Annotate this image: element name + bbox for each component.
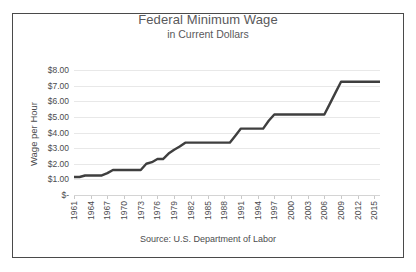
x-axis-tick: 1991 <box>241 196 242 230</box>
chart-subtitle: in Current Dollars <box>0 28 416 40</box>
x-axis-tick: 1982 <box>191 196 192 230</box>
x-axis-tick: 1970 <box>124 196 125 230</box>
x-axis-tick-label: 1979 <box>169 201 179 220</box>
y-axis-tick-label: $3.00 <box>48 143 69 153</box>
x-axis-tick-label: 1985 <box>203 201 213 220</box>
x-axis-tick-label: 2003 <box>303 201 313 220</box>
y-axis-tick-label: $5.00 <box>48 112 69 122</box>
x-axis-tick-label: 1973 <box>136 201 146 220</box>
x-axis-tick-label: 1988 <box>219 201 229 220</box>
x-axis-tick: 1979 <box>174 196 175 230</box>
chart-figure: Federal Minimum Wage in Current Dollars … <box>0 0 416 272</box>
x-axis-tick-mark <box>157 196 158 199</box>
y-axis-tick-label: $2.00 <box>48 159 69 169</box>
x-axis-tick-label: 1967 <box>102 201 112 220</box>
x-axis-tick-mark <box>358 196 359 199</box>
x-axis-tick: 1997 <box>274 196 275 230</box>
y-axis-tick-label: $1.00 <box>48 174 69 184</box>
x-axis-tick-mark <box>191 196 192 199</box>
x-axis-tick-label: 1964 <box>86 201 96 220</box>
y-axis-title: Wage per Hour <box>16 82 30 186</box>
x-axis-tick-mark <box>224 196 225 199</box>
x-axis-tick-label: 1961 <box>69 201 79 220</box>
x-axis-tick-label: 1982 <box>186 201 196 220</box>
x-axis-tick-label: 2006 <box>319 201 329 220</box>
x-axis-tick: 2006 <box>324 196 325 230</box>
x-axis-tick-mark <box>107 196 108 199</box>
x-axis-tick: 1973 <box>141 196 142 230</box>
x-axis-tick: 1964 <box>91 196 92 230</box>
y-axis-tick-label: $4.00 <box>48 128 69 138</box>
x-axis-tick: 2003 <box>308 196 309 230</box>
x-axis-tick-mark <box>374 196 375 199</box>
y-axis-tick-label: $6.00 <box>48 96 69 106</box>
x-axis-line <box>74 195 380 196</box>
x-axis-tick-mark <box>341 196 342 199</box>
x-axis-tick-mark <box>308 196 309 199</box>
x-axis-tick-label: 1976 <box>152 201 162 220</box>
x-axis-tick-label: 2015 <box>369 201 379 220</box>
x-axis-tick-label: 2009 <box>336 201 346 220</box>
x-axis-tick: 2015 <box>374 196 375 230</box>
x-axis-tick-mark <box>74 196 75 199</box>
x-axis-tick-mark <box>174 196 175 199</box>
x-axis-tick-mark <box>91 196 92 199</box>
x-axis-tick-label: 1970 <box>119 201 129 220</box>
y-axis-tick-label: $8.00 <box>48 65 69 75</box>
x-axis-tick-mark <box>324 196 325 199</box>
x-axis-tick-mark <box>241 196 242 199</box>
x-axis-tick-label: 2012 <box>353 201 363 220</box>
x-axis-tick: 1994 <box>258 196 259 230</box>
x-axis-tick-mark <box>291 196 292 199</box>
x-axis-tick: 1988 <box>224 196 225 230</box>
chart-title: Federal Minimum Wage <box>0 12 416 27</box>
x-axis-tick-mark <box>274 196 275 199</box>
x-axis-tick-label: 1994 <box>253 201 263 220</box>
x-axis-tick-mark <box>141 196 142 199</box>
source-note: Source: U.S. Department of Labor <box>0 234 416 244</box>
x-axis-tick-mark <box>124 196 125 199</box>
x-axis-tick: 1976 <box>157 196 158 230</box>
x-axis-tick-label: 1991 <box>236 201 246 220</box>
y-axis-tick-label: $- <box>61 190 69 200</box>
y-axis-tick-label: $7.00 <box>48 81 69 91</box>
series-line-wage <box>74 70 380 195</box>
x-axis-tick: 1985 <box>208 196 209 230</box>
x-axis-tick: 2012 <box>358 196 359 230</box>
x-axis-tick-label: 1997 <box>269 201 279 220</box>
y-axis-title-label: Wage per Hour <box>28 82 39 186</box>
x-axis-tick-label: 2000 <box>286 201 296 220</box>
x-axis-tick: 1967 <box>107 196 108 230</box>
x-axis-tick: 2009 <box>341 196 342 230</box>
plot-area: $-$1.00$2.00$3.00$4.00$5.00$6.00$7.00$8.… <box>74 70 380 195</box>
x-axis-tick: 2000 <box>291 196 292 230</box>
x-axis-tick-mark <box>208 196 209 199</box>
x-axis-tick: 1961 <box>74 196 75 230</box>
x-axis-tick-mark <box>258 196 259 199</box>
